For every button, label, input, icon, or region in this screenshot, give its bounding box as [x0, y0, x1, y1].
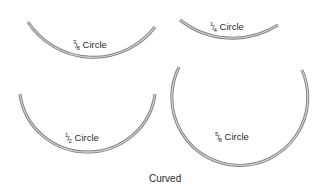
- needle-diagram: [0, 0, 330, 196]
- label-five-eighths-circle: 5/8 Circle: [215, 131, 249, 143]
- fraction-denominator: 8: [219, 137, 222, 143]
- label-one-half-circle: 1/2 Circle: [65, 132, 99, 144]
- fraction-denominator: 4: [214, 27, 217, 33]
- fraction-denominator: 2: [69, 138, 72, 144]
- fraction-denominator: 8: [77, 45, 80, 51]
- label-one-quarter-circle: 1/4 Circle: [210, 21, 244, 33]
- label-text: Circle: [75, 132, 99, 143]
- label-text: Circle: [83, 39, 107, 50]
- needle-five-eighths: [172, 67, 308, 165]
- label-three-eighths-circle: 3/8 Circle: [73, 39, 107, 51]
- label-text: Circle: [225, 131, 249, 142]
- figure-caption: Curved: [149, 173, 181, 184]
- label-text: Circle: [220, 21, 244, 32]
